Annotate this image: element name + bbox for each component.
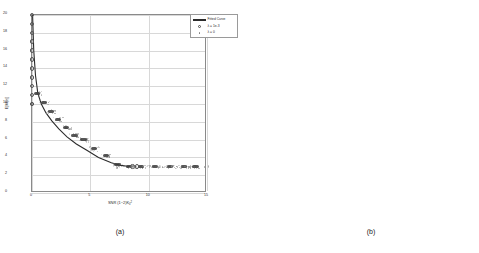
y-tick-label: 4 <box>5 155 7 159</box>
data-point-lambda-zero <box>97 151 98 152</box>
data-point-lambda-zero <box>164 167 165 168</box>
data-point-cluster <box>71 134 78 137</box>
x-tick-label: 10 <box>146 194 150 198</box>
data-point-lambda-1e-3 <box>30 48 35 53</box>
xlabel-superscript: 2 <box>131 201 132 204</box>
data-point-lambda-1e-3 <box>30 57 35 62</box>
data-point-lambda-zero <box>158 167 159 168</box>
y-tick-label: 14 <box>3 66 7 70</box>
legend-glyph <box>199 32 201 34</box>
data-point-lambda-zero <box>119 167 120 168</box>
data-point-lambda-zero <box>86 141 87 142</box>
data-point-lambda-zero <box>186 168 187 169</box>
figure-root: 02468101214161820 051015 E[M(z)] SNR (1−… <box>0 0 479 253</box>
y-tick-label: 16 <box>3 48 7 52</box>
data-point-lambda-zero <box>60 121 61 122</box>
legend-symbol-dot-icon <box>193 30 206 36</box>
data-point-lambda-zero <box>121 166 122 167</box>
legend-symbol-circle-icon <box>193 23 206 29</box>
data-point-lambda-zero <box>149 167 150 168</box>
data-point-lambda-zero <box>59 121 60 122</box>
data-point-cluster <box>192 165 199 168</box>
data-point-lambda-1e-3 <box>30 66 35 71</box>
y-tick-label: 6 <box>5 137 7 141</box>
y-tick-label: 0 <box>5 190 7 194</box>
data-point-lambda-zero <box>208 166 209 167</box>
legend-item-0[interactable]: Fitted Curve <box>193 17 235 24</box>
panel-b-heatmap: 34567891011121314151617181920 3456789101… <box>240 0 479 218</box>
data-point-lambda-zero <box>116 167 117 168</box>
caption-panel-a: (a) <box>116 228 125 235</box>
legend-label: λ = 0 <box>208 31 215 34</box>
data-point-lambda-zero <box>39 95 40 96</box>
data-point-lambda-1e-3 <box>30 75 35 80</box>
data-point-lambda-zero <box>171 167 172 168</box>
legend-item-2[interactable]: λ = 0 <box>193 30 235 37</box>
y-tick-label: 18 <box>3 30 7 34</box>
data-point-lambda-zero <box>93 150 94 151</box>
data-point-lambda-1e-3 <box>135 164 140 169</box>
legend-label: λ = 1e-3 <box>208 25 220 28</box>
x-tick-label: 5 <box>88 194 90 198</box>
data-point-cluster <box>55 118 62 121</box>
y-tick-label: 2 <box>5 172 7 176</box>
data-point-cluster <box>34 92 41 95</box>
data-point-cluster <box>41 101 48 104</box>
legend-glyph <box>198 25 201 28</box>
x-tick-label: 15 <box>204 194 208 198</box>
caption-panel-b: (b) <box>367 228 376 235</box>
data-point-lambda-zero <box>145 168 146 169</box>
data-point-lambda-zero <box>198 168 199 169</box>
legend-item-1[interactable]: λ = 1e-3 <box>193 23 235 30</box>
gridline-horizontal <box>32 193 205 194</box>
y-tick-label: 12 <box>3 83 7 87</box>
data-point-lambda-zero <box>40 93 41 94</box>
legend-label: Fitted Curve <box>208 18 226 21</box>
plot-a-y-axis-label: E[M(z)] <box>4 97 9 110</box>
plot-a-axes-frame <box>31 14 206 192</box>
panel-a-scatter-plot: 02468101214161820 051015 E[M(z)] SNR (1−… <box>0 0 240 218</box>
data-point-cluster <box>103 154 110 157</box>
data-point-cluster <box>48 110 55 113</box>
legend-symbol-line-icon <box>193 17 206 23</box>
data-point-lambda-zero <box>69 133 70 134</box>
data-point-lambda-zero <box>88 138 89 139</box>
data-point-cluster <box>63 126 70 129</box>
y-tick-label: 20 <box>3 12 7 16</box>
data-point-lambda-zero <box>190 167 191 168</box>
xlabel-prefix: SNR (1 <box>108 200 121 205</box>
data-point-lambda-zero <box>76 137 77 138</box>
data-point-cluster <box>80 138 87 141</box>
data-point-lambda-zero <box>70 128 71 129</box>
data-point-lambda-zero <box>52 113 53 114</box>
data-point-lambda-1e-3 <box>130 164 135 169</box>
plot-a-x-axis-label: SNR (1−2)K02 <box>108 200 132 206</box>
legend-glyph <box>193 19 206 20</box>
x-tick-label: 0 <box>30 194 32 198</box>
plot-a-legend[interactable]: Fitted Curveλ = 1e-3λ = 0 <box>190 14 238 38</box>
y-tick-label: 8 <box>5 119 7 123</box>
